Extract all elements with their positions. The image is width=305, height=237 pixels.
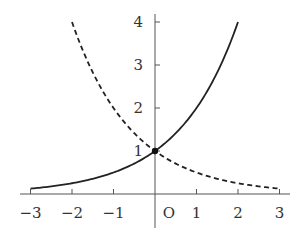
y-tick-label: 1 [133, 142, 143, 160]
origin-label: O [163, 204, 175, 222]
tick-labels: −3−2−11231234O [19, 13, 284, 222]
x-tick-label: −2 [61, 204, 83, 222]
y-tick-label: 4 [133, 13, 143, 31]
y-tick-label: 3 [133, 56, 143, 74]
curve-half-pow-x [72, 22, 280, 189]
x-tick-label: −3 [19, 204, 41, 222]
x-tick-label: −1 [102, 204, 124, 222]
x-tick-label: 3 [275, 204, 285, 222]
x-tick-label: 1 [192, 204, 202, 222]
y-tick-label: 2 [133, 99, 143, 117]
x-tick-label: 2 [233, 204, 243, 222]
exponential-chart: −3−2−11231234O [0, 0, 305, 237]
axes [20, 14, 290, 228]
intersection-point [152, 148, 158, 154]
